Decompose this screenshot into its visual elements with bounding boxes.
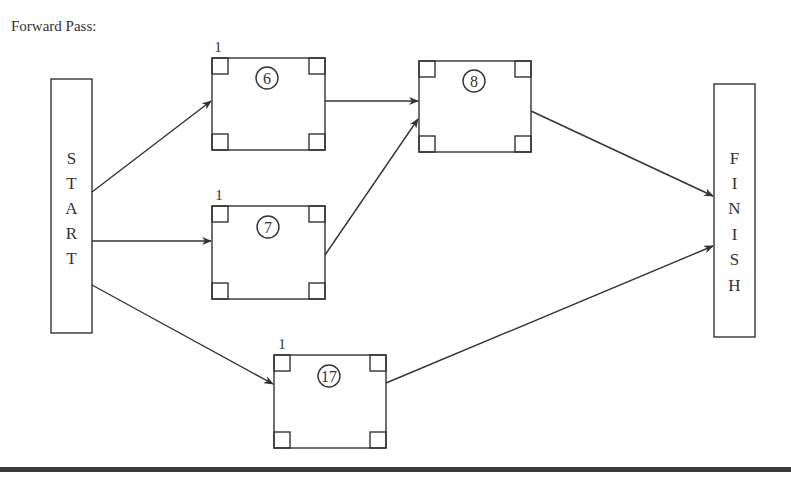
duration-8: 8 bbox=[470, 73, 478, 90]
arrow-8-to-finish bbox=[531, 111, 713, 196]
svg-text:T: T bbox=[66, 174, 77, 193]
duration-7: 7 bbox=[264, 219, 272, 236]
svg-text:R: R bbox=[66, 224, 78, 243]
svg-text:N: N bbox=[728, 199, 740, 218]
svg-text:H: H bbox=[728, 276, 740, 295]
svg-text:I: I bbox=[732, 225, 738, 244]
svg-text:T: T bbox=[66, 249, 77, 268]
arrow-start-to-6 bbox=[92, 101, 211, 192]
arrow-7-to-8 bbox=[325, 119, 418, 255]
early-start-17: 1 bbox=[278, 336, 286, 352]
svg-text:S: S bbox=[67, 149, 76, 168]
duration-6: 6 bbox=[263, 70, 271, 87]
finish-label: F I N I S H bbox=[728, 149, 740, 295]
duration-17: 17 bbox=[321, 368, 337, 385]
bottom-divider bbox=[0, 467, 791, 472]
arrow-start-to-17 bbox=[92, 285, 273, 384]
svg-text:A: A bbox=[65, 199, 78, 218]
network-diagram: S T A R T F I N I S H 6 7 8 17 1 1 1 bbox=[0, 0, 791, 485]
start-label: S T A R T bbox=[65, 149, 78, 268]
svg-text:F: F bbox=[730, 149, 739, 168]
svg-text:I: I bbox=[732, 174, 738, 193]
early-start-6: 1 bbox=[214, 39, 222, 55]
early-start-7: 1 bbox=[215, 187, 223, 203]
arrow-17-to-finish bbox=[386, 246, 713, 383]
svg-text:S: S bbox=[730, 250, 739, 269]
